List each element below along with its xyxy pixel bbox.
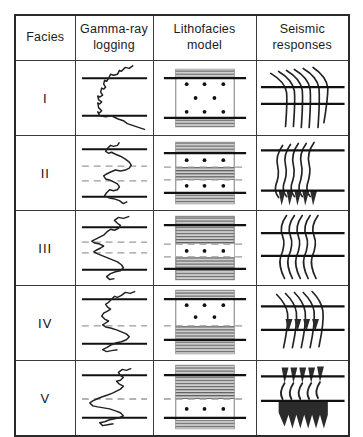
header-gamma-ray-line1: Gamma-ray <box>76 22 153 38</box>
lithofacies-model-2 <box>154 136 256 210</box>
table-row: III <box>15 211 349 286</box>
gamma-ray-log-2 <box>76 136 153 210</box>
seismic-cell-5 <box>256 361 349 437</box>
facies-label-1: I <box>15 61 75 136</box>
seismic-cell-4 <box>256 286 349 361</box>
gamma-ray-log-3 <box>76 211 153 285</box>
header-gamma-ray: Gamma-ray logging <box>75 15 153 61</box>
table-row: II <box>15 136 349 211</box>
seismic-response-2 <box>257 136 349 210</box>
lithofacies-cell-4 <box>153 286 256 361</box>
table-row: I <box>15 61 349 136</box>
header-facies-line1: Facies <box>16 30 75 46</box>
facies-label-3: III <box>15 211 75 286</box>
table-row: V <box>15 361 349 437</box>
gamma-ray-cell-3 <box>75 211 153 286</box>
gamma-ray-cell-4 <box>75 286 153 361</box>
table-header: Facies Gamma-ray logging Lithofacies mod… <box>15 15 349 61</box>
header-lithofacies-line1: Lithofacies <box>154 22 256 38</box>
seismic-cell-2 <box>256 136 349 211</box>
header-lithofacies: Lithofacies model <box>153 15 256 61</box>
seismic-response-3 <box>257 211 349 285</box>
lithofacies-cell-1 <box>153 61 256 136</box>
gamma-ray-cell-2 <box>75 136 153 211</box>
header-gamma-ray-line2: logging <box>76 38 153 54</box>
gamma-ray-cell-1 <box>75 61 153 136</box>
gamma-ray-log-4 <box>76 286 153 360</box>
seismic-response-5 <box>257 361 349 435</box>
gamma-ray-cell-5 <box>75 361 153 437</box>
seismic-cell-1 <box>256 61 349 136</box>
gamma-ray-log-1 <box>76 61 153 135</box>
header-row: Facies Gamma-ray logging Lithofacies mod… <box>15 15 349 61</box>
lithofacies-cell-5 <box>153 361 256 437</box>
facies-label-2: II <box>15 136 75 211</box>
lithofacies-model-5 <box>154 361 256 435</box>
seismic-cell-3 <box>256 211 349 286</box>
facies-label-5: V <box>15 361 75 437</box>
seismic-response-4 <box>257 286 349 360</box>
facies-table: Facies Gamma-ray logging Lithofacies mod… <box>14 14 350 437</box>
header-seismic-line1: Seismic <box>257 22 349 38</box>
lithofacies-cell-3 <box>153 211 256 286</box>
gamma-ray-log-5 <box>76 361 153 435</box>
header-facies: Facies <box>15 15 75 61</box>
facies-label-4: IV <box>15 286 75 361</box>
table-body: I <box>15 61 349 437</box>
lithofacies-model-1 <box>154 61 256 135</box>
lithofacies-model-3 <box>154 211 256 285</box>
seismic-response-1 <box>257 61 349 135</box>
lithofacies-model-4 <box>154 286 256 360</box>
lithofacies-cell-2 <box>153 136 256 211</box>
header-seismic-line2: responses <box>257 38 349 54</box>
header-lithofacies-line2: model <box>154 38 256 54</box>
table-row: IV <box>15 286 349 361</box>
header-seismic: Seismic responses <box>256 15 349 61</box>
